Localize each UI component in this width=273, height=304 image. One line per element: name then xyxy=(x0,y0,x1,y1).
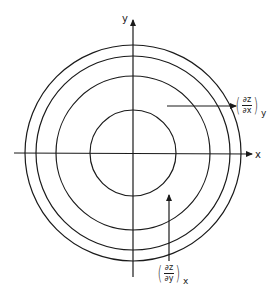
diagram-canvas xyxy=(0,0,273,304)
close-paren: ) xyxy=(176,263,181,283)
partial-z-x-label: ( ∂z ∂x ) y xyxy=(234,95,266,115)
y-axis-label: y xyxy=(122,14,128,24)
subscript: x xyxy=(183,277,188,286)
numerator: ∂z xyxy=(242,96,252,106)
partial-z-y-label: ( ∂z ∂y ) x xyxy=(156,263,188,283)
open-paren: ( xyxy=(236,95,241,115)
open-paren: ( xyxy=(158,263,163,283)
denominator: ∂y xyxy=(165,274,174,283)
contour-diagram: y x ( ∂z ∂x ) y ( ∂z ∂y ) x xyxy=(0,0,273,304)
fraction: ∂z ∂y xyxy=(164,264,174,283)
x-axis-label: x xyxy=(255,150,261,160)
denominator: ∂x xyxy=(243,106,252,115)
numerator: ∂z xyxy=(164,264,174,274)
subscript: y xyxy=(261,109,266,118)
close-paren: ) xyxy=(254,95,259,115)
fraction: ∂z ∂x xyxy=(242,96,252,115)
